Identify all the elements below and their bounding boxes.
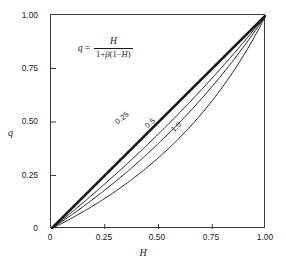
figure-container: q 1.00 0.75 0.50 0.25 0 0 0.25 0.50 0.75…	[0, 0, 286, 276]
x-tick-label-3: 0.50	[137, 232, 177, 242]
equation-annotation: q = H 1+β(1−H)	[78, 36, 133, 59]
equation-lhs: q	[78, 43, 83, 53]
y-tick-label-4: 0.25	[8, 170, 38, 180]
y-tick-label-2: 0.75	[8, 63, 38, 73]
equation-equals-sign: =	[85, 43, 90, 53]
equation-denominator-open: (1−	[110, 49, 122, 59]
figure-caption-clipped	[0, 268, 286, 276]
y-tick-label-3: 0.50	[8, 116, 38, 126]
x-tick-label-4: 0.75	[191, 232, 231, 242]
equation-denominator: 1+β(1−H)	[94, 49, 133, 60]
y-axis-title: q	[8, 127, 13, 138]
x-tick-label-2: 0.25	[84, 232, 124, 242]
equation-denominator-prefix: 1+	[96, 49, 105, 59]
x-tick-label-1: 0	[30, 232, 70, 242]
equation-numerator: H	[104, 36, 123, 48]
y-tick-label-1: 1.00	[8, 10, 38, 20]
x-axis-title: H	[0, 247, 286, 258]
x-tick-label-5: 1.00	[245, 232, 285, 242]
equation-fraction: H 1+β(1−H)	[94, 36, 133, 59]
equation-denominator-close: )	[128, 49, 131, 59]
